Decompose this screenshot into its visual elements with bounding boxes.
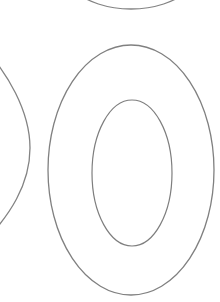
canvas-background [0,0,220,302]
glyph-outline-svg [0,0,220,302]
glyph-canvas-root [0,0,220,302]
